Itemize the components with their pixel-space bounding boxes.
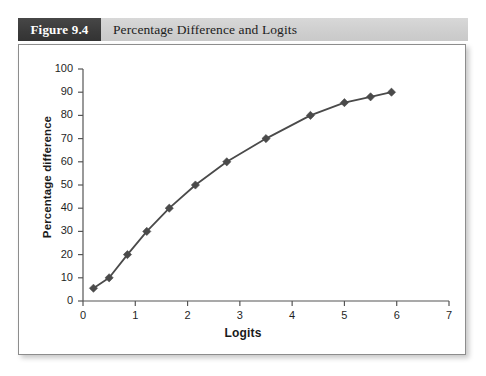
figure-title: Percentage Difference and Logits [101,18,468,41]
plot-area: 010203040506070809010001234567 Logits Pe… [19,45,467,356]
chart-series-line [93,92,391,288]
y-tick-label: 100 [47,62,73,74]
chart-axes [78,69,449,306]
x-tick-label: 3 [230,309,250,321]
x-tick-label: 0 [73,309,93,321]
y-axis-title: Percentage difference [41,87,53,267]
figure-header: Figure 9.4 Percentage Difference and Log… [18,18,468,41]
x-axis-title: Logits [19,326,467,340]
figure-container: Figure 9.4 Percentage Difference and Log… [0,0,486,376]
y-tick-label: 10 [47,271,73,283]
x-tick-label: 4 [282,309,302,321]
chart-panel: 010203040506070809010001234567 Logits Pe… [18,44,466,355]
x-tick-label: 2 [178,309,198,321]
x-tick-label: 6 [387,309,407,321]
x-tick-label: 1 [125,309,145,321]
x-tick-label: 7 [439,309,459,321]
chart-data-markers [89,88,395,292]
y-tick-label: 0 [47,294,73,306]
figure-number-tag: Figure 9.4 [18,18,101,41]
x-tick-label: 5 [334,309,354,321]
